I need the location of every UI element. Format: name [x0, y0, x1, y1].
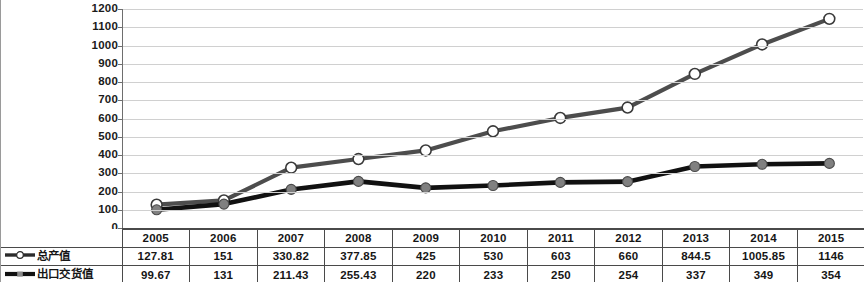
y-axis-tick-labels: 1200110010009008007006005004003002001000: [61, 0, 118, 229]
y-tick-mark: [118, 155, 123, 156]
y-tick-mark: [118, 64, 123, 65]
table-cell-s1-2011: 250: [527, 266, 595, 282]
table-cell-s1-2007: 211.43: [257, 266, 325, 282]
chart-figure: 1200110010009008007006005004003002001000…: [0, 0, 864, 282]
y-tick-mark: [118, 100, 123, 101]
y-axis-tick-1100: 1100: [61, 22, 118, 34]
data-point-1-2013: [690, 162, 700, 172]
legend-label-export-delivery: 出口交货值: [37, 269, 93, 281]
data-point-0-2012: [622, 102, 633, 113]
table-cell-s1-2015: 354: [797, 266, 864, 282]
data-point-1-2015: [824, 158, 834, 168]
table-header-year-2005: 2005: [122, 229, 190, 248]
table-cell-s1-2006: 131: [190, 266, 258, 282]
y-axis-tick-900: 900: [61, 58, 118, 70]
y-axis-tick-1000: 1000: [61, 40, 118, 52]
legend-item-export-delivery: 出口交货值: [1, 266, 122, 282]
y-tick-mark: [118, 137, 123, 138]
gridline: [123, 119, 863, 120]
y-tick-mark: [118, 46, 123, 47]
table-header-year-2006: 2006: [190, 229, 258, 248]
data-point-1-2012: [623, 177, 633, 187]
open-circle-line-icon: [5, 248, 35, 265]
data-point-0-2013: [689, 68, 700, 79]
table-cell-s0-2015: 1146: [797, 248, 864, 266]
y-axis-tick-400: 400: [61, 149, 118, 161]
y-tick-mark: [118, 27, 123, 28]
table-header-year-2011: 2011: [527, 229, 595, 248]
filled-square-line-icon: [5, 267, 35, 282]
table-cell-s1-2013: 337: [662, 266, 730, 282]
y-axis-tick-200: 200: [61, 186, 118, 198]
series-line-0: [157, 19, 830, 205]
data-point-1-2011: [555, 177, 565, 187]
table-cell-s0-2006: 151: [190, 248, 258, 266]
y-axis-tick-600: 600: [61, 113, 118, 125]
gridline: [123, 64, 863, 65]
legend-label-total-output: 总产值: [37, 250, 71, 262]
gridline: [123, 100, 863, 101]
table-header-year-2010: 2010: [460, 229, 528, 248]
table-cell-s0-2011: 603: [527, 248, 595, 266]
table-cell-s1-2010: 233: [460, 266, 528, 282]
data-point-1-2007: [286, 184, 296, 194]
gridline: [123, 210, 863, 211]
legend-spacer: [1, 229, 122, 248]
data-point-0-2007: [286, 162, 297, 173]
data-point-1-2010: [488, 180, 498, 190]
table-cell-s0-2005: 127.81: [122, 248, 190, 266]
y-tick-mark: [118, 9, 123, 10]
plot-area: [122, 9, 863, 229]
y-axis-tick-500: 500: [61, 131, 118, 143]
table-cell-s1-2008: 255.43: [325, 266, 393, 282]
table-header-year-2012: 2012: [595, 229, 663, 248]
gridline: [123, 82, 863, 83]
y-axis-tick-1200: 1200: [61, 3, 118, 15]
table-row-series-0: 总产值 127.81151330.82377.85425530603660844…: [1, 248, 864, 266]
table-header-year-2015: 2015: [797, 229, 864, 248]
gridline: [123, 173, 863, 174]
data-point-1-2014: [757, 159, 767, 169]
gridline: [123, 155, 863, 156]
table-header-year-2009: 2009: [392, 229, 460, 248]
table-header-year-2014: 2014: [730, 229, 798, 248]
gridline: [123, 137, 863, 138]
gridline: [123, 46, 863, 47]
table-cell-s1-2009: 220: [392, 266, 460, 282]
y-axis-tick-100: 100: [61, 204, 118, 216]
table-cell-s1-2014: 349: [730, 266, 798, 282]
table-row-years: 2005200620072008200920102011201220132014…: [1, 229, 864, 248]
table-cell-s0-2009: 425: [392, 248, 460, 266]
data-point-1-2006: [219, 199, 229, 209]
table-header-year-2007: 2007: [257, 229, 325, 248]
table-cell-s0-2013: 844.5: [662, 248, 730, 266]
data-point-0-2014: [757, 39, 768, 50]
table-cell-s1-2012: 254: [595, 266, 663, 282]
plot-region: 1200110010009008007006005004003002001000: [1, 0, 864, 229]
y-tick-mark: [118, 173, 123, 174]
table-header-year-2008: 2008: [325, 229, 393, 248]
table-cell-s0-2012: 660: [595, 248, 663, 266]
table-cell-s0-2010: 530: [460, 248, 528, 266]
y-axis-tick-700: 700: [61, 95, 118, 107]
table-header-year-2013: 2013: [662, 229, 730, 248]
table-row-series-1: 出口交货值 99.67131211.43255.4322023325025433…: [1, 266, 864, 282]
data-point-0-2010: [488, 126, 499, 137]
data-point-1-2008: [353, 176, 363, 186]
gridline: [123, 9, 863, 10]
table-cell-s0-2008: 377.85: [325, 248, 393, 266]
gridline: [123, 27, 863, 28]
y-tick-mark: [118, 192, 123, 193]
y-tick-mark: [118, 119, 123, 120]
table-cell-s0-2014: 1005.85: [730, 248, 798, 266]
table-cell-s1-2005: 99.67: [122, 266, 190, 282]
gridline: [123, 192, 863, 193]
legend-item-total-output: 总产值: [1, 248, 122, 266]
y-tick-mark: [118, 210, 123, 211]
table-cell-s0-2007: 330.82: [257, 248, 325, 266]
y-tick-mark: [118, 82, 123, 83]
y-axis-tick-800: 800: [61, 76, 118, 88]
data-table: 2005200620072008200920102011201220132014…: [1, 228, 864, 282]
y-axis-tick-300: 300: [61, 168, 118, 180]
data-point-0-2015: [824, 13, 835, 24]
